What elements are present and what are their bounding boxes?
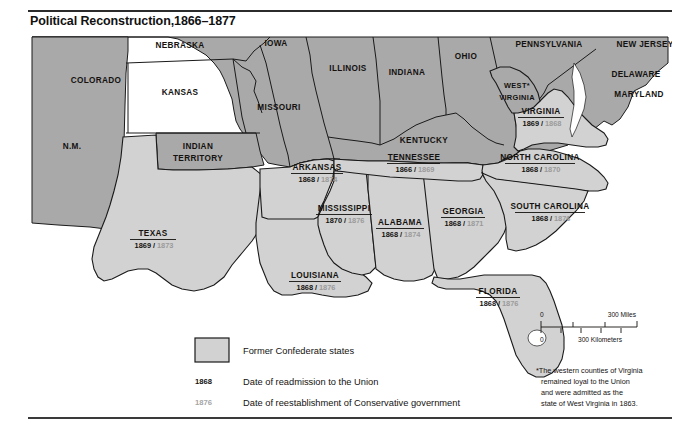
label-kentucky: KENTUCKY (400, 136, 448, 145)
scale-miles-zero: 0 (540, 311, 544, 318)
legend-conservative-label: Date of reestablishment of Conservative … (243, 398, 460, 408)
conf-slash-texas: / (153, 241, 155, 250)
conf-slash-louisiana: / (315, 283, 317, 292)
conf-label-north-carolina: NORTH CAROLINA (500, 153, 580, 162)
scale-km-zero: 0 (540, 336, 544, 343)
conf-conserv-texas: 1873 (157, 241, 173, 250)
conf-slash-georgia: / (463, 219, 465, 228)
conf-conserv-south-carolina: 1876 (554, 214, 570, 223)
label-group-arkansas: ARKANSAS 1868 / 1874 (291, 163, 343, 184)
conf-slash-mississippi: / (344, 216, 346, 225)
bottom-divider-rule (28, 417, 672, 419)
conf-slash-south-carolina: / (550, 214, 552, 223)
label-pennsylvania: PENNSYLVANIA (515, 40, 582, 49)
label-delaware: DELAWARE (611, 70, 660, 79)
reconstruction-map-svg: COLORADO NEBRASKA IOWA KANSAS N.M. INDIA… (28, 33, 672, 413)
conf-admit-mississippi: 1870 (326, 216, 342, 225)
legend-conservative-key: 1876 (195, 398, 212, 407)
label-colorado: COLORADO (71, 76, 122, 85)
label-iowa: IOWA (264, 39, 287, 48)
label-indian-territory-line2: TERRITORY (173, 154, 223, 163)
label-group-tennessee: TENNESSEE 1866 / 1869 (387, 153, 441, 174)
conf-conserv-arkansas: 1874 (321, 175, 338, 184)
top-divider-rule (28, 10, 672, 12)
conf-conserv-tennessee: 1869 (418, 165, 434, 174)
map-figure: COLORADO NEBRASKA IOWA KANSAS N.M. INDIA… (28, 33, 672, 413)
scale-km-max: 300 Kilometers (578, 336, 623, 343)
conf-admit-south-carolina: 1868 (532, 214, 548, 223)
label-indian-territory-line1: INDIAN (183, 142, 213, 151)
conf-label-alabama: ALABAMA (378, 218, 422, 227)
conf-admit-north-carolina: 1868 (522, 165, 538, 174)
page-title: Political Reconstruction,1866–1877 (30, 14, 236, 28)
conf-label-virginia: VIRGINIA (521, 107, 560, 116)
conf-conserv-georgia: 1871 (467, 219, 483, 228)
footnote-line-4: state of West Virginia in 1863. (541, 399, 638, 408)
label-new-mexico: N.M. (63, 142, 82, 151)
label-missouri: MISSOURI (257, 103, 300, 112)
conf-admit-alabama: 1868 (382, 230, 398, 239)
conf-conserv-louisiana: 1876 (319, 283, 335, 292)
label-maryland: MARYLAND (614, 90, 663, 99)
label-west-virginia-line1: WEST* (504, 81, 530, 90)
conf-admit-tennessee: 1866 (396, 165, 412, 174)
conf-conserv-florida: 1876 (502, 299, 518, 308)
map-page: Political Reconstruction,1866–1877 (0, 0, 698, 435)
legend-admit-key: 1868 (195, 377, 212, 386)
label-group-georgia: GEORGIA 1868 / 1871 (441, 207, 485, 228)
legend-swatch-label: Former Confederate states (243, 346, 354, 356)
label-ohio: OHIO (455, 52, 478, 61)
conf-conserv-virginia: 1868 (545, 119, 561, 128)
conf-label-south-carolina: SOUTH CAROLINA (510, 202, 589, 211)
conf-label-arkansas: ARKANSAS (292, 163, 341, 172)
legend-admit-label: Date of readmission to the Union (243, 377, 378, 387)
scale-miles-max: 300 Miles (608, 311, 637, 318)
label-group-virginia: VIRGINIA 1869 / 1868 (518, 107, 564, 128)
legend-swatch-confederate (195, 338, 229, 362)
label-kansas: KANSAS (162, 88, 199, 97)
footnote-line-2: remained loyal to the Union (541, 377, 630, 386)
label-group-florida: FLORIDA 1868 / 1876 (476, 287, 520, 308)
conf-slash-north-carolina: / (540, 165, 542, 174)
conf-label-mississippi: MISSISSIPPI (318, 204, 371, 213)
footnote-line-1: *The western counties of Virginia (536, 366, 643, 375)
conf-label-tennessee: TENNESSEE (388, 153, 441, 162)
conf-label-texas: TEXAS (138, 229, 167, 238)
conf-slash-arkansas: / (317, 175, 319, 184)
conf-admit-florida: 1868 (480, 299, 496, 308)
label-new-jersey: NEW JERSEY (616, 40, 672, 49)
conf-slash-florida: / (498, 299, 500, 308)
conf-admit-texas: 1869 (135, 241, 151, 250)
label-indiana: INDIANA (389, 68, 426, 77)
label-nebraska: NEBRASKA (155, 41, 204, 50)
conf-label-florida: FLORIDA (479, 287, 518, 296)
conf-conserv-north-carolina: 1870 (544, 165, 560, 174)
conf-conserv-mississippi: 1876 (348, 216, 364, 225)
conf-admit-louisiana: 1868 (297, 283, 313, 292)
conf-slash-tennessee: / (414, 165, 416, 174)
conf-admit-arkansas: 1868 (299, 175, 315, 184)
label-group-alabama: ALABAMA 1868 / 1874 (376, 218, 424, 239)
label-illinois: ILLINOIS (329, 64, 367, 73)
conf-label-louisiana: LOUISIANA (291, 271, 339, 280)
conf-admit-georgia: 1868 (445, 219, 461, 228)
conf-conserv-alabama: 1874 (404, 230, 421, 239)
conf-slash-alabama: / (400, 230, 402, 239)
indian-territory-shape (156, 133, 264, 170)
footnote-line-3: and were admitted as the (541, 388, 623, 397)
label-group-louisiana: LOUISIANA 1868 / 1876 (289, 271, 341, 292)
conf-label-georgia: GEORGIA (442, 207, 483, 216)
label-west-virginia-line2: VIRGINIA (499, 93, 535, 102)
conf-admit-virginia: 1869 (523, 119, 539, 128)
conf-slash-virginia: / (541, 119, 543, 128)
